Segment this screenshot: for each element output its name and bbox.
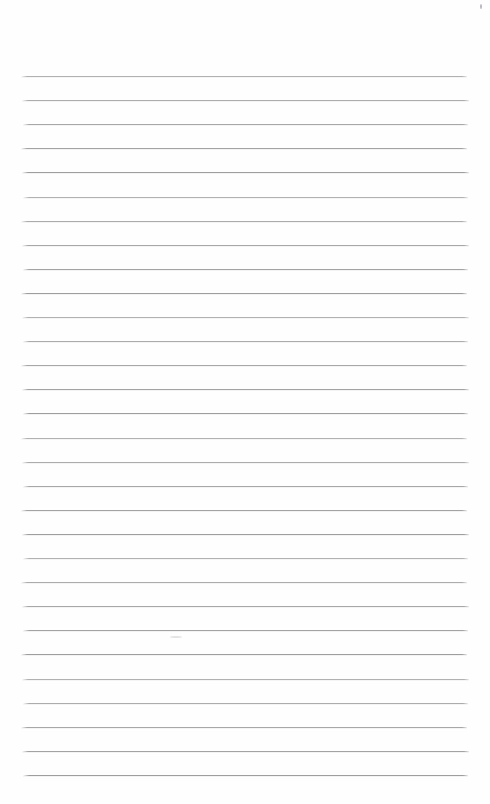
ruled-line bbox=[21, 510, 467, 511]
ruled-line bbox=[21, 438, 467, 439]
ruled-line bbox=[23, 413, 468, 414]
ruled-line bbox=[23, 775, 468, 776]
ruled-line bbox=[22, 100, 469, 101]
ruled-line bbox=[21, 365, 467, 366]
ruled-line bbox=[22, 462, 469, 463]
scan-smudge-mid-page bbox=[170, 636, 182, 638]
ruled-line bbox=[22, 606, 469, 607]
ruled-line bbox=[23, 269, 468, 270]
ruled-line bbox=[22, 679, 469, 680]
ruled-line bbox=[21, 148, 467, 149]
scan-speck-top-right bbox=[480, 4, 482, 9]
ruled-line bbox=[22, 172, 469, 173]
notebook-page bbox=[0, 0, 490, 804]
ruled-line bbox=[23, 558, 468, 559]
ruled-line bbox=[22, 245, 469, 246]
ruled-line bbox=[23, 197, 468, 198]
ruled-line bbox=[23, 124, 468, 125]
ruled-line bbox=[21, 582, 467, 583]
ruled-line bbox=[23, 703, 468, 704]
ruled-line bbox=[22, 317, 469, 318]
ruled-line bbox=[23, 486, 468, 487]
ruled-line bbox=[23, 341, 468, 342]
ruled-line bbox=[21, 76, 467, 77]
ruled-line bbox=[21, 293, 467, 294]
ruled-line bbox=[22, 751, 469, 752]
ruled-line bbox=[22, 534, 469, 535]
ruled-line bbox=[22, 389, 469, 390]
ruled-line bbox=[23, 630, 468, 631]
ruled-line bbox=[21, 727, 467, 728]
ruled-line bbox=[21, 654, 467, 655]
ruled-line bbox=[21, 221, 467, 222]
